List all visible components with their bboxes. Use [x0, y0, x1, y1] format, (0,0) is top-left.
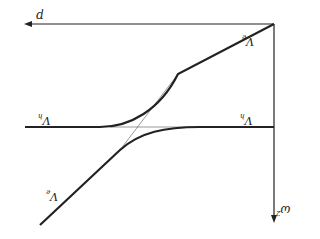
p-axis — [24, 21, 274, 27]
ve-upper-main: V — [246, 35, 254, 48]
omega-sup: 2 — [276, 209, 280, 217]
omega-main: ω — [280, 203, 290, 217]
ve-lower-label: Ve — [46, 188, 58, 202]
ve-lower-sub: e — [46, 188, 50, 196]
vh-left-label: Vh — [38, 112, 50, 126]
lower-branch-curve — [40, 127, 274, 225]
vh-left-sub: h — [38, 112, 43, 120]
ve-lower-main: V — [50, 190, 58, 203]
vh-right-sub: h — [240, 112, 245, 120]
p-label-text: p — [36, 9, 44, 23]
arrowhead-left-icon — [24, 21, 32, 27]
vh-right-label: Vh — [240, 112, 252, 126]
p-axis-label: p — [36, 10, 44, 22]
ve-upper-sub: e — [242, 33, 246, 41]
omega-axis — [271, 24, 277, 223]
vh-left-main: V — [43, 114, 51, 127]
vh-right-main: V — [245, 114, 253, 127]
uncoupled-lines — [110, 74, 215, 150]
omega-axis-label: ω2 — [276, 204, 290, 216]
ve-upper-label: Ve — [242, 33, 254, 47]
